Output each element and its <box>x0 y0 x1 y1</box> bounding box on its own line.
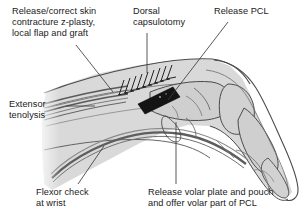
label-skin-release: Release/correct skin contracture z-plast… <box>12 6 134 40</box>
label-release-pcl: Release PCL <box>214 6 294 17</box>
label-extensor-tenolysis: Extensor tenolysis <box>9 99 71 121</box>
label-flexor-check: Flexor check at wrist <box>36 187 118 209</box>
label-dorsal-capsulotomy: Dorsal capsulotomy <box>133 6 205 28</box>
anatomical-figure: Release/correct skin contracture z-plast… <box>0 0 307 221</box>
label-volar-plate-release: Release volar plate and pouch and offer … <box>148 187 304 209</box>
